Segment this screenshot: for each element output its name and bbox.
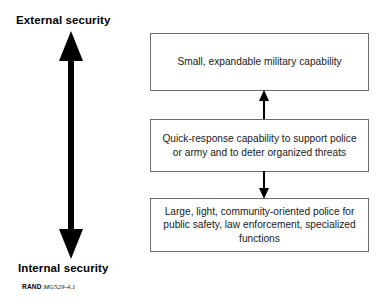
double-headed-arrow-icon (57, 31, 85, 259)
caption-identifier: MG529-4.1 (42, 283, 76, 290)
source-caption: RAND MG529-4.1 (22, 283, 75, 290)
arrow-up-icon (258, 90, 270, 120)
box-label: Quick-response capability to support pol… (159, 132, 360, 159)
box-label: Large, light, community-oriented police … (159, 205, 360, 246)
box-small-expandable-military-capability: Small, expandable military capability (150, 33, 369, 91)
caption-organization: RAND (22, 283, 42, 290)
arrow-down-icon (258, 171, 270, 199)
box-label: Small, expandable military capability (177, 55, 341, 69)
figure-canvas: External security Internal security Smal… (0, 0, 389, 302)
box-community-oriented-police: Large, light, community-oriented police … (150, 198, 369, 252)
axis-label-internal-security: Internal security (18, 262, 109, 274)
axis-label-external-security: External security (16, 14, 110, 26)
box-quick-response-capability: Quick-response capability to support pol… (150, 119, 369, 172)
